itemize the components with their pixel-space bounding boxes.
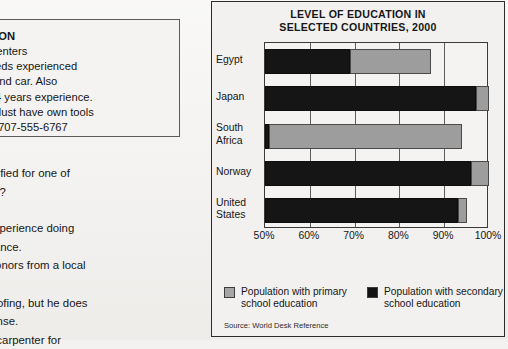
ad-heading: STRUCTION bbox=[0, 29, 171, 44]
bar-segment-secondary bbox=[265, 49, 350, 74]
bar-segment-secondary bbox=[265, 161, 471, 186]
chart-title-line-2: SELECTED COUNTRIES, 2000 bbox=[212, 21, 504, 34]
y-axis-label-line: Norway bbox=[216, 166, 261, 178]
bar-segment-secondary bbox=[265, 86, 476, 111]
legend-swatch-primary-icon bbox=[224, 287, 235, 298]
ad-line: erience. Must have own tools bbox=[0, 105, 171, 120]
bar-segment-secondary bbox=[265, 198, 458, 223]
y-axis-label-line: United bbox=[216, 197, 261, 209]
x-axis-tick-60: 60% bbox=[298, 230, 319, 241]
chart-title: LEVEL OF EDUCATION IN SELECTED COUNTRIES… bbox=[212, 8, 504, 35]
legend-label-secondary: Population with secondary school educati… bbox=[384, 286, 503, 311]
x-axis-tick-70: 70% bbox=[343, 230, 364, 241]
answer-line: ne some roofing, but he does bbox=[0, 294, 210, 313]
legend-label-primary: Population with primary school education bbox=[241, 286, 347, 311]
y-axis-label-line: South bbox=[216, 122, 261, 134]
legend-label-secondary-line-2: school education bbox=[384, 298, 460, 309]
bar-egypt bbox=[265, 49, 431, 74]
ad-line: rs & Carpenters bbox=[0, 44, 171, 59]
left-text-column: STRUCTION rs & Carpenters npany needs ex… bbox=[0, 0, 211, 340]
legend-label-primary-line-1: Population with primary bbox=[241, 286, 347, 297]
chart-panel: LEVEL OF EDUCATION IN SELECTED COUNTRIES… bbox=[211, 1, 505, 337]
y-axis-label-line: States bbox=[216, 209, 261, 221]
answer-line: driver's license. bbox=[0, 312, 210, 331]
legend-item-secondary: Population with secondary school educati… bbox=[367, 286, 503, 311]
legend-label-primary-line-2: school education bbox=[241, 298, 317, 309]
x-axis-tick-50: 50% bbox=[254, 230, 275, 241]
chart-title-line-1: LEVEL OF EDUCATION IN bbox=[212, 8, 504, 21]
ad-line: wn tools and car. Also bbox=[0, 74, 171, 89]
answer-line: orked as a carpenter for bbox=[0, 331, 210, 349]
ad-line: npany needs experienced bbox=[0, 59, 171, 74]
answer-line: a year of experience doing bbox=[0, 219, 210, 238]
ad-line: ices with 4 years experience. bbox=[0, 90, 171, 105]
answer-line: ated with honors from a local bbox=[0, 256, 210, 275]
ad-line: ointment. 707-555-6767 bbox=[0, 120, 171, 135]
x-axis-tick-80: 80% bbox=[388, 230, 409, 241]
bar-norway bbox=[265, 161, 489, 186]
y-axis-label-egypt: Egypt bbox=[212, 54, 261, 66]
legend-label-secondary-line-1: Population with secondary bbox=[384, 286, 503, 297]
y-axis-label-line: Japan bbox=[216, 91, 261, 103]
legend-swatch-secondary-icon bbox=[367, 287, 378, 298]
question-line: is best qualified for one of bbox=[0, 164, 210, 183]
y-axis-label-united-states: UnitedStates bbox=[212, 197, 261, 221]
answer-line: rd maintenance. bbox=[0, 238, 210, 257]
plot-area bbox=[264, 42, 488, 228]
y-axis-label-japan: Japan bbox=[212, 91, 261, 103]
question-block: is best qualified for one of ed in the a… bbox=[0, 164, 210, 349]
legend-item-primary: Population with primary school education bbox=[224, 286, 347, 311]
bar-south-africa bbox=[265, 124, 462, 149]
chart-source: Source: World Desk Reference bbox=[224, 321, 329, 330]
question-line: ed in the ad? bbox=[0, 183, 210, 202]
y-axis-label-line: Africa bbox=[216, 135, 261, 147]
job-ad-box: STRUCTION rs & Carpenters npany needs ex… bbox=[0, 19, 180, 137]
bar-segment-primary bbox=[350, 49, 431, 74]
bar-segment-primary bbox=[471, 161, 489, 186]
chart-legend: Population with primary school education… bbox=[224, 286, 506, 316]
y-axis-labels: EgyptJapanSouthAfricaNorwayUnitedStates bbox=[212, 42, 263, 228]
y-axis-label-line: Egypt bbox=[216, 54, 261, 66]
x-axis-labels: 50%60%70%80%90%100% bbox=[264, 230, 508, 246]
bar-segment-primary bbox=[458, 198, 467, 223]
bar-japan bbox=[265, 86, 489, 111]
x-axis-tick-100: 100% bbox=[475, 230, 502, 241]
y-axis-label-south-africa: SouthAfrica bbox=[212, 122, 261, 146]
plot-area-wrapper: EgyptJapanSouthAfricaNorwayUnitedStates … bbox=[212, 42, 504, 250]
x-axis-tick-90: 90% bbox=[433, 230, 454, 241]
bar-segment-primary bbox=[476, 86, 489, 111]
y-axis-label-norway: Norway bbox=[212, 166, 261, 178]
question-text: is best qualified for one of bbox=[0, 167, 70, 179]
bar-segment-primary bbox=[269, 124, 462, 149]
answer-line: l. bbox=[0, 275, 210, 294]
bar-united-states bbox=[265, 198, 467, 223]
